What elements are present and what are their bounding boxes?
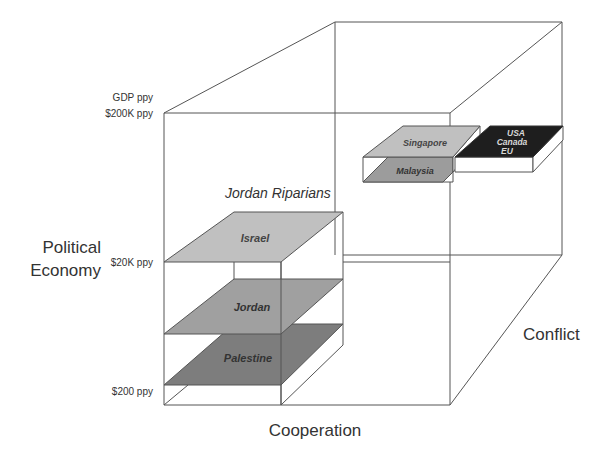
plane-label-israel: Israel — [241, 232, 271, 244]
tick-gdp-label: GDP ppy — [113, 92, 153, 103]
plane-label-singapore: Singapore — [403, 138, 447, 148]
tick-200: $200 ppy — [112, 386, 153, 397]
plane-label-palestine: Palestine — [224, 352, 272, 364]
axis-label-economy: Economy — [30, 261, 101, 280]
tick-200k: $200K ppy — [105, 108, 153, 119]
plane-label-malaysia: Malaysia — [396, 166, 434, 176]
cooperation-conflict-cube-diagram: GDP ppy $200K ppy $20K ppy $200 ppy Poli… — [0, 0, 609, 460]
axis-label-political: Political — [42, 238, 101, 257]
plane-label-jordan: Jordan — [234, 301, 271, 313]
tick-20k: $20K ppy — [111, 257, 153, 268]
diagram-title: Jordan Riparians — [224, 185, 331, 201]
axis-label-conflict: Conflict — [523, 325, 580, 344]
plane-label-eu: EU — [501, 146, 514, 156]
axis-label-cooperation: Cooperation — [269, 421, 362, 440]
